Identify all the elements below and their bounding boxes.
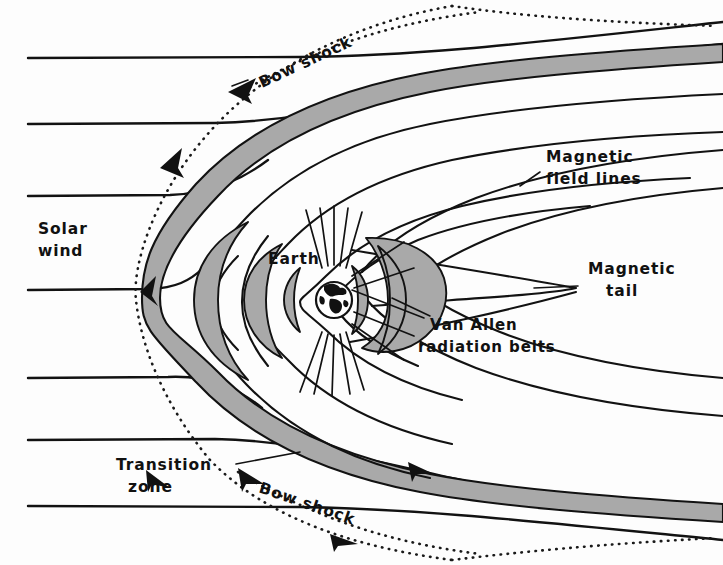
solar-wind-label-line2: wind [38,242,83,260]
magnetic-tail-label-line1: Magnetic [588,260,676,278]
van-allen-label-line2: radiation belts [418,338,556,356]
earth-label: Earth [268,250,320,268]
transition-zone-label-line1: Transition [116,456,212,474]
transition-zone-label-line2: zone [128,478,173,496]
arrow-bottom-tail [330,534,358,552]
magnetosphere-diagram: Solar wind Bow shock Bow shock Transitio… [0,0,723,565]
magnetosphere-figure: Solar wind Bow shock Bow shock Transitio… [0,0,723,565]
magnetic-field-lines-label-line2: field lines [546,170,642,188]
leader-transition-zone [236,452,300,464]
magnetic-field-lines-label-line1: Magnetic [546,148,634,166]
arrow-upper-left [160,148,184,178]
solar-wind-label-line1: Solar [38,220,88,238]
bow-shock-label-bottom: Bow shock [257,479,358,529]
magnetic-tail-label-line2: tail [606,282,638,300]
van-allen-label-line1: Van Allen [430,316,518,334]
bow-shock-label-top: Bow shock [256,33,355,92]
